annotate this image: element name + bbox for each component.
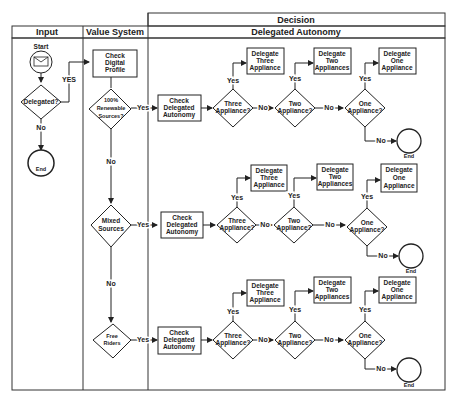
lane-title-delegated-autonomy: Delegated Autonomy	[251, 27, 341, 37]
input-lane: Start Delegated? YES No End	[21, 43, 89, 176]
one-no-label: No	[376, 365, 385, 372]
two-box-line-2: Two	[326, 57, 339, 64]
three-box-line-2: Three	[256, 289, 274, 296]
one-q-line-2: Appliance?	[347, 339, 382, 347]
lane-title-input: Input	[36, 27, 58, 37]
two-yes-label: Yes	[289, 75, 301, 82]
two-yes-label: Yes	[289, 306, 301, 313]
one-yes-label: Yes	[359, 75, 371, 82]
lane-title-decision: Decision	[277, 15, 315, 25]
delegated-decision-label: Delegated?	[23, 98, 58, 106]
one-q-line-2: Appliance?	[347, 107, 382, 115]
two-yes-label: Yes	[288, 192, 300, 199]
free-riders-line-1: Free	[106, 333, 118, 339]
check-line-1: Check	[169, 97, 189, 104]
one-box-line-2: One	[393, 174, 406, 181]
three-box-line-3: Appliance	[253, 181, 284, 189]
three-box-line-2: Three	[260, 174, 278, 181]
end-label: End	[36, 166, 46, 172]
flowchart: Decision Input Value System Delegated Au…	[0, 0, 456, 403]
two-no-label: No	[324, 336, 333, 343]
three-q-line-2: Appliance?	[215, 339, 250, 347]
check-line-1: Check	[172, 214, 192, 221]
three-q-line-2: Appliance?	[215, 107, 250, 115]
two-box-line-3: Appliances	[315, 64, 350, 72]
end-label: End	[404, 382, 414, 388]
two-q-line-1: Two	[289, 332, 302, 339]
lane-title-value-system: Value System	[86, 27, 144, 37]
renewable-line-2: Renewable	[97, 105, 126, 111]
yes-label: YES	[62, 76, 76, 83]
three-box-line-2: Three	[256, 57, 274, 64]
row-yes-in: Yes	[137, 104, 149, 111]
two-q-line-1: Two	[289, 100, 302, 107]
two-box-line-3: Appliances	[318, 180, 353, 188]
three-yes-label: Yes	[227, 77, 239, 84]
two-q-line-2: Appliance?	[276, 224, 311, 232]
three-q-line-2: Appliance?	[219, 224, 254, 232]
one-q-line-1: One	[359, 332, 372, 339]
three-box-line-3: Appliance	[249, 296, 280, 304]
one-box-line-2: One	[391, 57, 404, 64]
one-box-line-3: Appliance	[383, 182, 414, 190]
three-box-line-3: Appliance	[249, 64, 280, 72]
two-box-line-3: Appliances	[315, 293, 350, 301]
two-box-line-2: Two	[329, 173, 342, 180]
one-yes-label: Yes	[359, 306, 371, 313]
one-box-line-3: Appliance	[381, 293, 412, 301]
renewable-line-1: 100%	[104, 97, 118, 103]
end-label: End	[404, 153, 414, 159]
three-no-label: No	[258, 336, 267, 343]
one-q-line-1: One	[359, 100, 372, 107]
two-q-line-1: Two	[288, 217, 301, 224]
end-node[interactable]	[28, 150, 54, 176]
mixed-line-1: Mixed	[102, 217, 120, 224]
one-no-label: No	[378, 252, 387, 259]
no-label: No	[36, 124, 45, 131]
three-no-label: No	[258, 104, 267, 111]
three-no-label: No	[260, 221, 269, 228]
end-node[interactable]	[399, 244, 423, 268]
end-label: End	[406, 268, 416, 274]
one-box-line-2: One	[391, 286, 404, 293]
check-digital-profile-line-1: Check	[105, 52, 125, 59]
one-no-label: No	[376, 137, 385, 144]
renewable-line-3: Sources?	[98, 113, 124, 119]
check-digital-profile-line-3: Profile	[105, 66, 126, 73]
mixed-line-2: Sources	[98, 225, 124, 232]
start-label: Start	[34, 43, 50, 50]
two-q-line-2: Appliance?	[277, 339, 312, 347]
decision-row-3: Yes Check Delegated Autonomy Three Appli…	[131, 277, 421, 388]
value-system-lane: Check Digital Profile 100% Renewable Sou…	[89, 50, 137, 358]
two-no-label: No	[324, 104, 333, 111]
decision-row-1: Yes Check Delegated Autonomy Three Appli…	[131, 48, 421, 159]
free-riders-line-2: Riders	[103, 340, 120, 346]
one-q-line-1: One	[361, 219, 374, 226]
row-yes-in: Yes	[137, 336, 149, 343]
check-line-3: Autonomy	[166, 228, 199, 236]
check-line-1: Check	[169, 329, 189, 336]
two-no-label: No	[325, 221, 334, 228]
row-yes-in: Yes	[137, 221, 149, 228]
end-node[interactable]	[397, 358, 421, 382]
one-box-line-3: Appliance	[381, 64, 412, 72]
decision-row-2: Yes Check Delegated Autonomy Three Appli…	[131, 164, 423, 274]
one-box-line-1: Delegate	[385, 166, 412, 174]
check-line-3: Autonomy	[163, 111, 196, 119]
no-label-2: No	[106, 280, 115, 287]
two-box-line-2: Two	[326, 286, 339, 293]
one-q-line-2: Appliance?	[349, 226, 384, 234]
three-yes-label: Yes	[231, 194, 243, 201]
two-q-line-2: Appliance?	[277, 107, 312, 115]
end-node[interactable]	[397, 129, 421, 153]
three-yes-label: Yes	[227, 308, 239, 315]
three-q-line-1: Three	[224, 332, 242, 339]
three-q-line-1: Three	[228, 217, 246, 224]
one-yes-label: Yes	[361, 193, 373, 200]
three-q-line-1: Three	[224, 100, 242, 107]
no-label-1: No	[106, 158, 115, 165]
check-line-3: Autonomy	[163, 343, 196, 351]
